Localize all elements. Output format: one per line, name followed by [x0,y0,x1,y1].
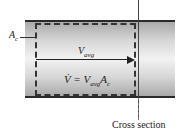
cross-section-leader [138,98,139,120]
area-label: Ac [9,30,18,43]
velocity-arrow-shaft [36,59,128,60]
flow-rate-equation: V̇ = VavgAc [64,74,110,88]
velocity-arrow-head-icon [127,56,135,64]
cross-section-label: Cross section [112,120,166,130]
velocity-label: Vavg [78,46,94,59]
area-leader-line [20,37,35,38]
